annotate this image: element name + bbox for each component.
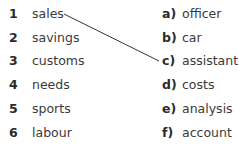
item-letter: c) (162, 51, 175, 71)
item-letter: a) (162, 4, 176, 24)
item-letter: d) (162, 75, 177, 95)
item-number: 2 (9, 28, 19, 48)
item-word: officer (182, 4, 221, 24)
item-letter: e) (162, 99, 176, 119)
item-word: assistant (182, 51, 238, 71)
item-word: customs (32, 51, 85, 71)
item-number: 5 (9, 99, 19, 119)
item-word: sales (32, 4, 64, 24)
item-word: sports (32, 99, 71, 119)
item-letter: f) (162, 123, 173, 143)
item-number: 3 (9, 51, 19, 71)
item-word: account (182, 123, 232, 143)
item-word: labour (32, 123, 72, 143)
item-word: needs (32, 75, 70, 95)
item-word: savings (32, 28, 79, 48)
item-number: 1 (9, 4, 19, 24)
item-number: 6 (9, 123, 19, 143)
item-word: analysis (182, 99, 233, 119)
item-word: costs (182, 75, 214, 95)
item-number: 4 (9, 75, 19, 95)
item-word: car (182, 28, 202, 48)
item-letter: b) (162, 28, 177, 48)
